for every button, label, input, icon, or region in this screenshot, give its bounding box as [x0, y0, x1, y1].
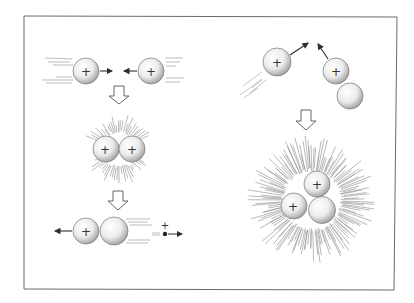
positron: + — [161, 220, 182, 236]
neutron — [337, 83, 363, 109]
motion-lines-icon — [240, 72, 266, 98]
neutron — [309, 197, 336, 224]
svg-text:+: + — [161, 220, 169, 231]
down-arrow-icon — [109, 86, 129, 104]
left-step1: + + — [42, 58, 184, 84]
proton: + — [263, 48, 291, 76]
svg-text:+: + — [100, 143, 110, 157]
proton: + — [93, 136, 119, 162]
proton: + — [323, 58, 349, 84]
arrow-up-left-icon — [318, 44, 328, 59]
fusion-diagram: + + + + + — [0, 0, 414, 303]
svg-text:+: + — [288, 200, 298, 214]
proton: + — [73, 58, 99, 84]
right-step2: + + — [248, 136, 375, 263]
down-arrow-icon — [296, 110, 316, 130]
arrow-up-right-icon — [290, 43, 308, 55]
down-arrow-icon — [108, 191, 128, 210]
svg-text:+: + — [81, 65, 91, 79]
neutron — [100, 217, 128, 245]
frame-border — [24, 16, 397, 290]
motion-lines-icon — [126, 219, 160, 243]
svg-text:+: + — [127, 143, 137, 157]
proton: + — [304, 171, 330, 197]
svg-text:+: + — [272, 56, 282, 70]
svg-text:+: + — [312, 178, 322, 192]
svg-text:+: + — [81, 225, 91, 239]
right-step1: + + — [240, 43, 363, 109]
motion-lines-icon — [165, 58, 184, 82]
left-step3: + + — [55, 217, 182, 245]
svg-text:+: + — [146, 65, 156, 79]
proton: + — [119, 136, 145, 162]
proton: + — [73, 218, 99, 244]
proton: + — [281, 193, 307, 219]
proton: + — [138, 58, 164, 84]
svg-text:+: + — [331, 65, 341, 79]
left-step2: + + — [86, 115, 149, 183]
motion-lines-icon — [42, 58, 73, 83]
